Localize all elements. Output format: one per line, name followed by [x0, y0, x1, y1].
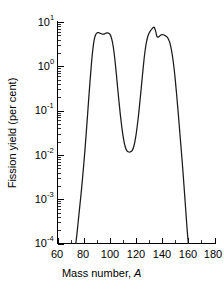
y-tick-mantissa: 10: [35, 149, 47, 161]
y-tick-exponent: -1: [47, 101, 54, 110]
y-axis-label: Fission yield (per cent): [6, 78, 18, 189]
chart-canvas: Fission yield (per cent) 10 1 10 0 10 -1…: [0, 0, 224, 295]
x-tick-label: 80: [77, 248, 89, 260]
x-tick-label: 120: [127, 248, 145, 260]
y-tick-label: 10 -2: [35, 146, 54, 161]
y-tick-mantissa: 10: [38, 60, 50, 72]
y-tick-label: 10 -3: [35, 190, 54, 205]
y-tick-mantissa: 10: [35, 104, 47, 116]
x-axis-label-italic: A: [133, 267, 141, 279]
x-tick-label: 60: [51, 248, 63, 260]
x-tick-labels: 60 80 100 120 140 160 180: [51, 248, 222, 260]
x-axis-label: Mass number, A: [62, 267, 141, 279]
y-tick-mantissa: 10: [35, 193, 47, 205]
x-axis-ticks: [59, 238, 216, 244]
y-tick-label: 10 1: [38, 13, 54, 28]
y-tick-mantissa: 10: [35, 237, 47, 249]
y-tick-exponent: 1: [50, 13, 54, 22]
fission-yield-curve: [76, 27, 189, 243]
y-tick-exponent: 0: [50, 57, 54, 66]
y-tick-exponent: -2: [47, 146, 54, 155]
x-tick-label: 160: [179, 248, 197, 260]
x-tick-label: 100: [101, 248, 119, 260]
y-tick-mantissa: 10: [38, 16, 50, 28]
y-tick-exponent: -4: [47, 234, 54, 243]
x-tick-label: 140: [153, 248, 171, 260]
y-tick-label: 10 -1: [35, 101, 54, 116]
x-tick-label: 180: [204, 248, 222, 260]
fission-yield-chart: Fission yield (per cent) 10 1 10 0 10 -1…: [0, 0, 224, 295]
y-tick-labels: 10 1 10 0 10 -1 10 -2 10 -3 10 -4: [35, 13, 54, 249]
y-tick-label: 10 -4: [35, 234, 54, 249]
y-axis-ticks: [58, 23, 64, 245]
x-axis-label-main: Mass number,: [62, 267, 131, 279]
y-tick-label: 10 0: [38, 57, 54, 72]
y-tick-exponent: -3: [47, 190, 54, 199]
